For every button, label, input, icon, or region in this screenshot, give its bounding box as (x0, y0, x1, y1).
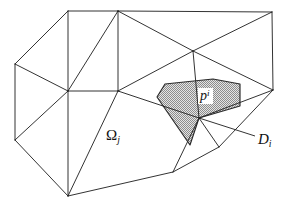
mesh-edge (118, 11, 272, 12)
label-p-i: pi (198, 88, 213, 104)
label-omega-j: Ωj (106, 128, 120, 145)
mesh-figure: Ωj pi Di (0, 0, 289, 208)
mesh-edge (15, 11, 68, 64)
mesh-edge (193, 12, 272, 51)
mesh-edge (118, 11, 193, 51)
mesh-diagram-svg (0, 0, 289, 208)
label-omega-base: Ω (106, 127, 117, 143)
label-d-i: Di (258, 132, 272, 149)
mesh-edge (68, 172, 173, 196)
leader-line-di (199, 118, 255, 136)
label-p-base: p (200, 88, 207, 103)
mesh-edge (68, 11, 118, 91)
label-d-subscript: i (269, 138, 272, 149)
label-d-base: D (258, 131, 269, 147)
mesh-edge (15, 64, 68, 91)
mesh-edge (173, 147, 219, 172)
mesh-edge (15, 140, 68, 196)
mesh-edge (199, 118, 219, 147)
mesh-edge (15, 91, 68, 140)
mesh-edge (272, 12, 273, 90)
label-p-superscript: i (207, 88, 210, 98)
label-omega-subscript: j (117, 134, 120, 145)
